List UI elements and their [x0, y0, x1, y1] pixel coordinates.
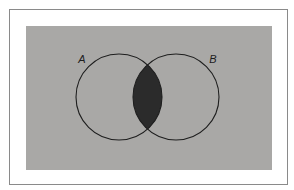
venn-diagram: A B: [0, 0, 294, 190]
set-a-label: A: [77, 53, 85, 65]
set-b-label: B: [209, 53, 216, 65]
